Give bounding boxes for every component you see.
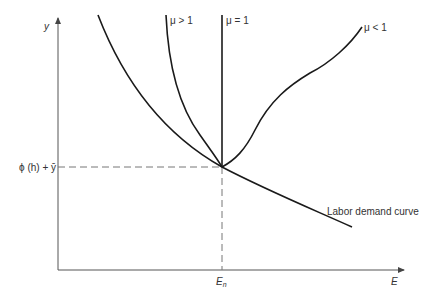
mu-less-than-1-label: μ < 1 xyxy=(364,22,387,33)
labor-demand-curve-label: Labor demand curve xyxy=(327,206,419,217)
x-axis-label: E xyxy=(391,276,398,287)
mu-greater-than-1-curve xyxy=(166,15,222,167)
labor-demand-curve xyxy=(98,15,352,227)
phi-h-plus-ybar-label: ϕ (h) + ȳ xyxy=(19,162,56,173)
mu-less-than-1-curve xyxy=(222,27,362,167)
y-axis-label: y xyxy=(43,21,50,32)
en-tick-label: En xyxy=(216,276,227,288)
diagram-canvas: y E En ϕ (h) + ȳ μ > 1 μ = 1 μ < 1 Labor… xyxy=(0,0,425,296)
mu-equals-1-label: μ = 1 xyxy=(226,15,249,26)
mu-greater-than-1-label: μ > 1 xyxy=(170,15,193,26)
